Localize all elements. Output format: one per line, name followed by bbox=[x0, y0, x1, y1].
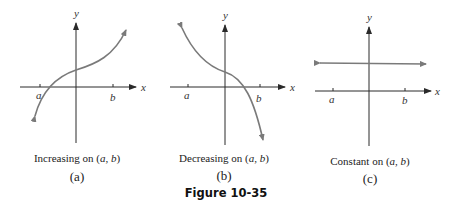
sublabel-a: (a) bbox=[70, 169, 84, 184]
decreasing-curve bbox=[182, 28, 263, 140]
tick-b-label: b bbox=[110, 91, 116, 103]
caption-b: Decreasing on (a, b) bbox=[179, 152, 269, 165]
tick-a-label: a bbox=[184, 89, 190, 101]
tick-b-label: b bbox=[402, 94, 408, 106]
caption-a: Increasing on (a, b) bbox=[34, 152, 120, 165]
x-axis-label: x bbox=[140, 81, 146, 93]
sublabel-b: (b) bbox=[216, 168, 231, 183]
tick-a-label: a bbox=[329, 93, 335, 105]
increasing-curve bbox=[35, 30, 126, 116]
panel-c-constant: x y a b Constant on (a, b) (c) bbox=[315, 11, 440, 186]
tick-b-label: b bbox=[256, 92, 262, 104]
figure-title: Figure 10-35 bbox=[185, 186, 267, 200]
figure-10-35: x y a b Increasing on (a, b) (a) x y a b… bbox=[0, 0, 459, 212]
x-axis-label: x bbox=[289, 81, 295, 93]
y-axis-label: y bbox=[73, 7, 79, 19]
sublabel-c: (c) bbox=[363, 171, 377, 186]
constant-line bbox=[320, 63, 426, 64]
caption-c: Constant on (a, b) bbox=[330, 155, 410, 168]
y-axis-label: y bbox=[366, 11, 372, 23]
x-axis-label: x bbox=[434, 85, 440, 97]
y-axis-label: y bbox=[222, 9, 228, 21]
panel-a-increasing: x y a b Increasing on (a, b) (a) bbox=[20, 7, 146, 184]
panel-b-decreasing: x y a b Decreasing on (a, b) (b) bbox=[170, 9, 295, 183]
